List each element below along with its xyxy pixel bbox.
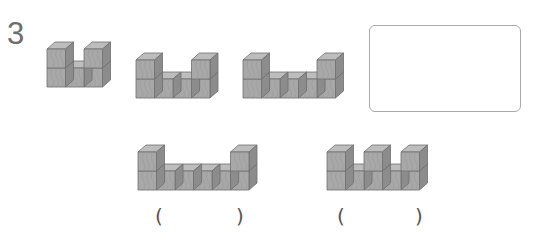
option-b-paren-close: ) <box>415 206 423 226</box>
option-a-paren-close: ) <box>236 206 244 226</box>
option-b-answer-blank[interactable] <box>352 206 412 226</box>
option-b-paren-open: ( <box>337 206 345 226</box>
option-a-answer-blank[interactable] <box>170 206 230 226</box>
option-figure-b[interactable] <box>0 0 541 251</box>
cube-stack-icon <box>0 0 541 251</box>
option-a-paren-open: ( <box>155 206 163 226</box>
